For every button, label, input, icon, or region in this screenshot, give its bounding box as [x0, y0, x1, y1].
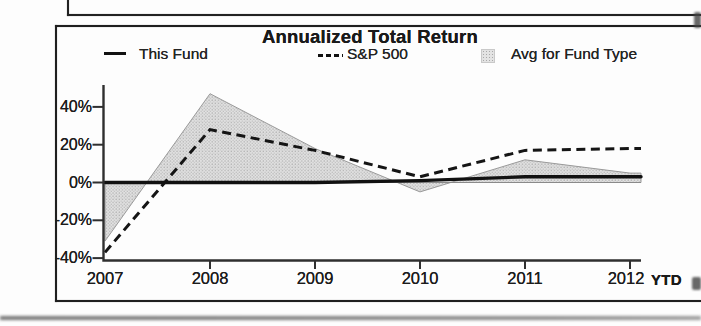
scanned-report-page: { "page": { "upper_box_note": "bottom ed…	[0, 0, 701, 326]
ytick-40: 40%	[40, 98, 92, 116]
xtick-2010: 2010	[389, 269, 451, 288]
scan-smudge-top-right	[694, 12, 701, 28]
xtick-2012: 2012	[595, 269, 657, 288]
xtick-2009: 2009	[284, 269, 346, 288]
ytick-0: 0%	[40, 174, 92, 192]
scan-smudge-right-of-ytd	[692, 277, 701, 290]
scan-artifact-bottom-band	[0, 316, 701, 320]
ytick-neg40: -40%	[40, 249, 92, 267]
xtick-2011: 2011	[494, 269, 556, 288]
xtick-2008: 2008	[179, 269, 241, 288]
xtick-2007: 2007	[74, 269, 136, 288]
ytick-20: 20%	[40, 136, 92, 154]
xaxis-ytd-label: YTD	[651, 271, 682, 288]
ytick-neg20: -20%	[40, 211, 92, 229]
